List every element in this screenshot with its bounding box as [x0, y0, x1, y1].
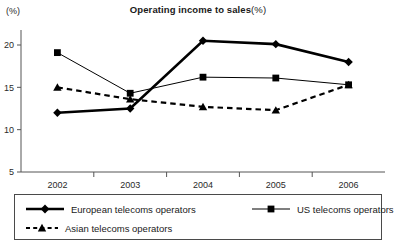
svg-text:20: 20 [4, 40, 14, 50]
svg-text:15: 15 [4, 83, 14, 93]
legend-label-us: US telecoms operators [297, 204, 394, 215]
legend-item-us: US telecoms operators [251, 202, 394, 216]
svg-text:10: 10 [4, 125, 14, 135]
svg-text:2003: 2003 [120, 180, 140, 190]
legend-item-asian: Asian telecoms operators [25, 221, 172, 235]
chart-page: Operating income to sales(%) (%) 5101520… [0, 0, 396, 247]
series-asian [53, 81, 353, 114]
svg-text:2004: 2004 [193, 180, 213, 190]
svg-text:2005: 2005 [266, 180, 286, 190]
legend-swatch-diamond-icon [25, 203, 65, 215]
legend-label-european: European telecoms operators [71, 204, 196, 215]
legend-item-european: European telecoms operators [25, 202, 196, 216]
plot-area: 510152020022003200420052006 [0, 0, 396, 190]
svg-text:2006: 2006 [339, 180, 359, 190]
svg-text:2002: 2002 [47, 180, 67, 190]
legend-swatch-triangle-icon [25, 222, 59, 234]
svg-text:5: 5 [9, 167, 14, 177]
series-us [54, 49, 352, 96]
legend-swatch-square-icon [251, 203, 291, 215]
chart-plot-svg: 510152020022003200420052006 [0, 0, 396, 190]
legend-label-asian: Asian telecoms operators [65, 223, 172, 234]
chart-legend: European telecoms operators US telecoms … [14, 194, 382, 240]
